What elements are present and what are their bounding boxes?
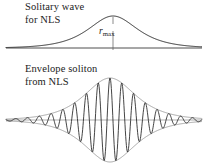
solitary-wave-panel: Solitary wave for NLS rmax [0,0,208,60]
solitary-wave-caption-line1: Solitary wave [25,1,84,14]
carrier-wave-curve [6,78,202,161]
peak-amplitude-label: rmax [99,26,115,39]
envelope-soliton-caption-line2: from NLS [25,76,97,89]
envelope-soliton-caption: Envelope soliton from NLS [25,63,97,88]
figure-container: Solitary wave for NLS rmax Envelope soli… [0,0,208,165]
lower-envelope-curve [6,121,202,162]
solitary-wave-caption: Solitary wave for NLS [25,1,84,26]
envelope-soliton-caption-line1: Envelope soliton [25,63,97,76]
peak-subscript: max [103,30,115,37]
envelope-soliton-panel: Envelope soliton from NLS [0,62,208,165]
solitary-wave-caption-line2: for NLS [25,14,84,27]
